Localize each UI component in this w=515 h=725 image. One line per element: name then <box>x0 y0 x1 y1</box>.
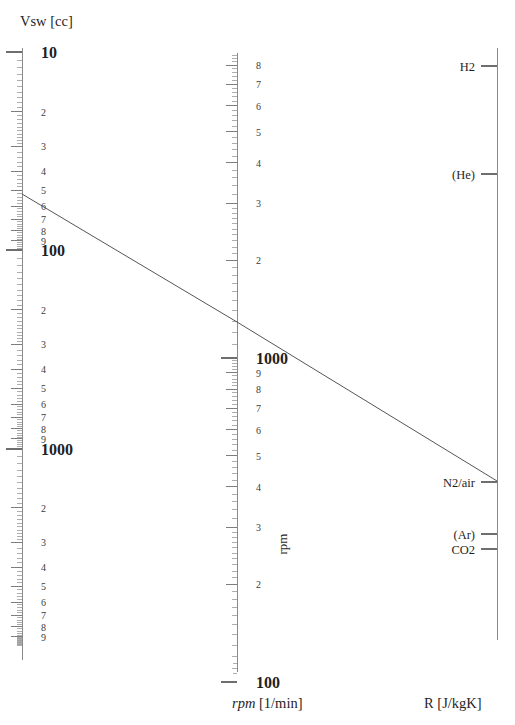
rpm-sub-label: 2 <box>256 579 261 590</box>
vsw-sub-label: 4 <box>41 364 46 375</box>
vsw-sub-label: 7 <box>41 610 46 621</box>
rpm-sub-label: 6 <box>256 425 261 436</box>
middle-axis-title-rest: [1/min] <box>255 695 302 711</box>
r-gas-label: CO2 <box>451 543 475 557</box>
rpm-tick-label-group: 1000100987654322345678 <box>256 60 288 691</box>
vsw-tick-group <box>6 52 22 645</box>
index-alignment-line <box>22 194 497 481</box>
rpm-decade-label: 1000 <box>256 350 288 367</box>
rpm-sub-label: 7 <box>256 403 261 414</box>
r-gas-label: (He) <box>452 168 475 182</box>
right-axis-title: R [J/kgK] <box>424 695 482 711</box>
vsw-sub-label: 9 <box>41 236 46 247</box>
vsw-sub-label: 5 <box>41 185 46 196</box>
vsw-sub-label: 6 <box>41 597 46 608</box>
rpm-sub-label: 8 <box>256 384 261 395</box>
vsw-sub-label: 2 <box>41 503 46 514</box>
vsw-sub-label: 3 <box>41 537 46 548</box>
left-axis-title: Vsw [cc] <box>20 13 73 29</box>
vsw-decade-label: 10 <box>41 44 57 61</box>
rpm-sub-label: 8 <box>256 60 261 71</box>
axis-r: H2(He)N2/air(Ar)CO2 <box>443 48 497 640</box>
vsw-sub-label: 7 <box>41 214 46 225</box>
vsw-sub-label: 2 <box>41 107 46 118</box>
nomogram-page: 101001000234567892345678923456789 100010… <box>0 0 515 725</box>
vsw-sub-label: 3 <box>41 141 46 152</box>
nomogram-figure: 101001000234567892345678923456789 100010… <box>0 0 515 725</box>
rpm-sub-label: 6 <box>256 101 261 112</box>
vsw-sub-label: 9 <box>41 434 46 445</box>
r-gas-label-group: H2(He)N2/air(Ar)CO2 <box>443 60 476 557</box>
rpm-sub-label: 5 <box>256 451 261 462</box>
rpm-sub-label: 3 <box>256 522 261 533</box>
rpm-rotated-label: rpm <box>275 534 290 555</box>
vsw-sub-label: 7 <box>41 412 46 423</box>
vsw-sub-label: 2 <box>41 305 46 316</box>
r-gas-label: H2 <box>460 60 475 74</box>
rpm-sub-label: 4 <box>256 158 261 169</box>
rpm-sub-label: 2 <box>256 255 261 266</box>
vsw-sub-label: 6 <box>41 399 46 410</box>
rpm-decade-label: 100 <box>256 674 280 691</box>
middle-axis-title-italic: rpm <box>232 695 255 711</box>
rpm-sub-label: 9 <box>256 368 261 379</box>
vsw-sub-label: 9 <box>41 632 46 643</box>
r-gas-label: N2/air <box>443 476 476 490</box>
middle-axis-title: rpm [1/min] <box>232 695 303 711</box>
vsw-sub-label: 3 <box>41 339 46 350</box>
axis-rpm: 1000100987654322345678 <box>221 53 288 691</box>
rpm-sub-label: 4 <box>256 482 261 493</box>
vsw-sub-label: 4 <box>41 562 46 573</box>
vsw-sub-label: 4 <box>41 166 46 177</box>
r-gas-label: (Ar) <box>453 528 475 542</box>
rpm-sub-label: 7 <box>256 79 261 90</box>
vsw-sub-label: 5 <box>41 581 46 592</box>
vsw-tick-label-group: 101001000234567892345678923456789 <box>41 44 73 643</box>
rpm-tick-group <box>221 55 237 682</box>
rpm-sub-label: 5 <box>256 127 261 138</box>
vsw-sub-label: 5 <box>41 383 46 394</box>
axis-vsw: 101001000234567892345678923456789 <box>6 44 73 660</box>
rpm-sub-label: 3 <box>256 198 261 209</box>
